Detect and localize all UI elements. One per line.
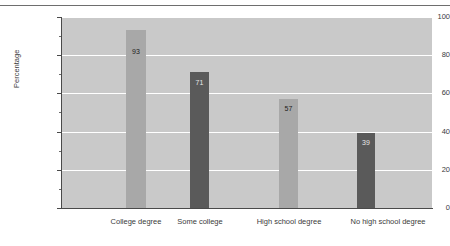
bar-some-college[interactable]: 71 — [190, 72, 209, 208]
chart-screenshot: Percentage 100 80 60 40 20 0 93 — [0, 0, 450, 246]
x-tick-label-some-college: Some college — [160, 217, 240, 226]
gridline-40 — [62, 132, 432, 133]
x-axis-spine — [61, 208, 433, 209]
bar-no-high-school-degree[interactable]: 39 — [357, 133, 375, 208]
bar-value-label: 71 — [190, 79, 209, 87]
gridline-100 — [62, 17, 432, 18]
gridline-20 — [62, 170, 432, 171]
gridline-80 — [62, 55, 432, 56]
bar-college-degree[interactable]: 93 — [126, 30, 146, 208]
gridline-60 — [62, 93, 432, 94]
x-tick-label-no-high-school-degree: No high school degree — [330, 217, 446, 226]
plot-area: 93 71 57 39 — [62, 17, 432, 208]
bar-value-label: 57 — [279, 105, 298, 113]
y-axis-title: Percentage — [12, 50, 21, 88]
bar-chart-figure: Percentage 100 80 60 40 20 0 93 — [0, 0, 450, 246]
x-tick-label-high-school-degree: High school degree — [238, 217, 340, 226]
bar-high-school-degree[interactable]: 57 — [279, 99, 298, 208]
bar-value-label: 39 — [357, 139, 375, 147]
y-axis-spine — [61, 17, 62, 209]
bar-value-label: 93 — [126, 48, 146, 56]
